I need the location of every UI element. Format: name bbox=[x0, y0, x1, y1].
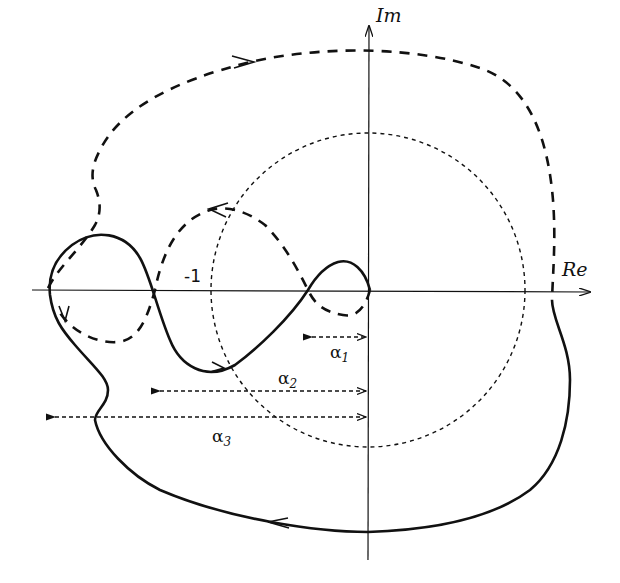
alpha3-label: α3 bbox=[212, 426, 231, 449]
alpha1-label: α1 bbox=[330, 342, 349, 365]
axes bbox=[32, 26, 590, 560]
arrow-top-right-icon bbox=[232, 56, 254, 68]
arrow-left-icon bbox=[209, 203, 228, 217]
alpha2-label: α2 bbox=[278, 368, 297, 391]
arrow-left-loop-icon bbox=[59, 306, 69, 321]
real-axis bbox=[32, 290, 590, 292]
nyquist-diagram: Im Re -1 α1 α2 α3 bbox=[0, 0, 620, 583]
real-axis-label: Re bbox=[561, 258, 588, 280]
imag-axis-label: Im bbox=[375, 4, 402, 26]
solid-curve bbox=[50, 235, 570, 532]
critical-point-label: -1 bbox=[184, 266, 201, 286]
